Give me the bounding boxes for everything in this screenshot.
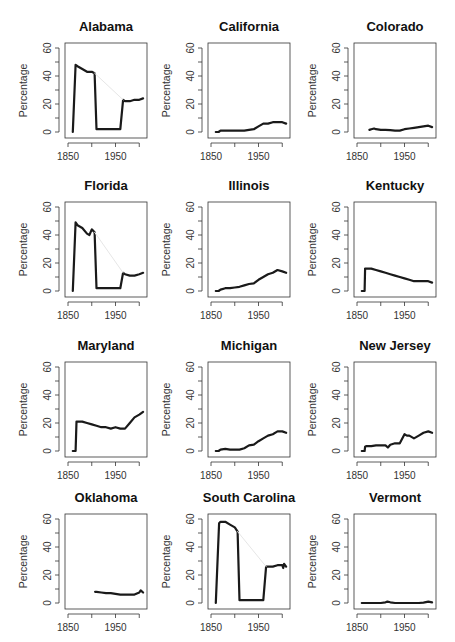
plot-frame — [354, 202, 436, 297]
y-tick-label: 40 — [185, 389, 196, 401]
plot-frame — [208, 202, 290, 297]
panel-title: California — [219, 19, 280, 34]
y-tick-label: 40 — [42, 541, 53, 553]
y-axis-label: Percentage — [306, 222, 318, 276]
y-tick-label: 60 — [185, 361, 196, 373]
panel-california: California0204060Percentage18501950 — [160, 19, 290, 162]
data-line — [73, 65, 143, 132]
y-tick-label: 60 — [42, 201, 53, 213]
data-line — [362, 431, 432, 451]
panel-title: Maryland — [77, 338, 134, 353]
y-tick-label: 40 — [331, 389, 342, 401]
y-axis-label: Percentage — [17, 382, 29, 436]
panel-oklahoma: Oklahoma0204060Percentage18501950 — [17, 490, 147, 633]
x-tick-label: 1850 — [200, 622, 223, 633]
y-axis-label: Percentage — [160, 382, 172, 436]
x-tick-label: 1850 — [200, 470, 223, 481]
y-tick-label: 20 — [331, 569, 342, 581]
y-tick-label: 20 — [42, 257, 53, 269]
y-tick-label: 60 — [42, 513, 53, 525]
y-tick-label: 20 — [185, 569, 196, 581]
y-tick-label: 60 — [331, 513, 342, 525]
y-tick-label: 60 — [331, 201, 342, 213]
panel-new-jersey: New Jersey0204060Percentage18501950 — [306, 338, 436, 481]
y-tick-label: 0 — [42, 129, 53, 135]
plot-frame — [208, 43, 290, 138]
gap-connector-line — [95, 73, 124, 100]
x-tick-label: 1950 — [393, 310, 416, 321]
panel-south-carolina: South Carolina0204060Percentage18501950 — [160, 490, 296, 633]
x-tick-label: 1850 — [57, 151, 80, 162]
y-axis-label: Percentage — [160, 534, 172, 588]
data-line — [216, 522, 286, 603]
data-line — [73, 412, 143, 451]
y-tick-label: 40 — [42, 229, 53, 241]
data-line — [369, 126, 432, 131]
y-tick-label: 20 — [42, 569, 53, 581]
data-line — [216, 122, 286, 132]
y-axis-label: Percentage — [17, 63, 29, 117]
data-line — [216, 270, 286, 291]
data-line — [95, 590, 143, 594]
x-tick-label: 1950 — [393, 622, 416, 633]
y-tick-label: 60 — [331, 42, 342, 54]
y-tick-label: 20 — [185, 257, 196, 269]
y-tick-label: 60 — [42, 42, 53, 54]
x-tick-label: 1950 — [247, 622, 270, 633]
plot-frame — [65, 43, 147, 138]
y-tick-label: 60 — [185, 42, 196, 54]
x-tick-label: 1950 — [393, 470, 416, 481]
panel-title: Alabama — [79, 19, 134, 34]
y-tick-label: 20 — [185, 98, 196, 110]
y-tick-label: 0 — [42, 288, 53, 294]
panel-title: South Carolina — [203, 490, 296, 505]
x-tick-label: 1950 — [393, 151, 416, 162]
y-tick-label: 20 — [331, 98, 342, 110]
y-axis-label: Percentage — [306, 382, 318, 436]
plot-frame — [65, 202, 147, 297]
panel-title: Kentucky — [366, 178, 425, 193]
x-tick-label: 1850 — [57, 622, 80, 633]
y-tick-label: 0 — [42, 600, 53, 606]
y-tick-label: 0 — [185, 288, 196, 294]
x-tick-label: 1950 — [247, 470, 270, 481]
y-tick-label: 40 — [185, 229, 196, 241]
y-tick-label: 0 — [331, 288, 342, 294]
y-tick-label: 40 — [185, 541, 196, 553]
x-tick-label: 1950 — [104, 151, 127, 162]
panel-kentucky: Kentucky0204060Percentage18501950 — [306, 178, 436, 321]
x-tick-label: 1850 — [346, 622, 369, 633]
y-tick-label: 40 — [331, 229, 342, 241]
x-tick-label: 1950 — [104, 622, 127, 633]
y-tick-label: 20 — [185, 417, 196, 429]
x-tick-label: 1850 — [200, 310, 223, 321]
y-tick-label: 0 — [185, 129, 196, 135]
panel-title: Oklahoma — [75, 490, 139, 505]
data-line — [362, 269, 432, 291]
y-tick-label: 60 — [185, 201, 196, 213]
x-tick-label: 1850 — [346, 310, 369, 321]
x-tick-label: 1950 — [247, 151, 270, 162]
panel-alabama: Alabama0204060Percentage18501950 — [17, 19, 147, 162]
y-tick-label: 20 — [331, 257, 342, 269]
y-axis-label: Percentage — [17, 534, 29, 588]
y-axis-label: Percentage — [306, 63, 318, 117]
y-tick-label: 40 — [331, 541, 342, 553]
gap-connector-line — [238, 532, 267, 567]
y-axis-label: Percentage — [160, 63, 172, 117]
data-line — [362, 602, 432, 603]
y-tick-label: 60 — [331, 361, 342, 373]
plot-frame — [208, 362, 290, 457]
small-multiples-grid: Alabama0204060Percentage18501950Californ… — [0, 0, 455, 642]
panel-illinois: Illinois0204060Percentage18501950 — [160, 178, 290, 321]
x-tick-label: 1950 — [104, 470, 127, 481]
panel-title: Vermont — [369, 490, 422, 505]
data-line — [73, 222, 143, 291]
y-tick-label: 40 — [185, 70, 196, 82]
x-tick-label: 1850 — [57, 470, 80, 481]
panel-maryland: Maryland0204060Percentage18501950 — [17, 338, 147, 481]
y-tick-label: 60 — [185, 513, 196, 525]
panel-florida: Florida0204060Percentage18501950 — [17, 178, 147, 321]
y-tick-label: 20 — [331, 417, 342, 429]
x-tick-label: 1950 — [104, 310, 127, 321]
